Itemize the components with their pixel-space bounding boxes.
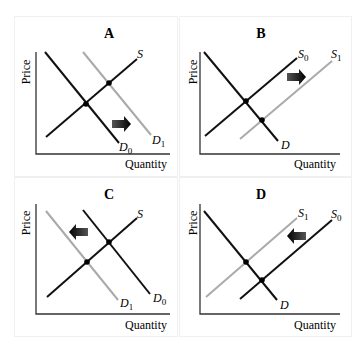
label-s1: S1 — [298, 206, 309, 222]
ylabel-a: Price — [19, 60, 33, 85]
chart-a: A Price Quantity S D0 D1 — [19, 26, 170, 171]
axes-a — [36, 52, 170, 154]
chart-b: B Price Quantity S0 S1 D — [186, 26, 342, 171]
xlabel-c: Quantity — [125, 318, 167, 332]
label-s: S — [137, 207, 143, 221]
label-d1: D1 — [119, 296, 133, 312]
title-c: C — [104, 187, 114, 202]
label-s: S — [137, 47, 143, 61]
chart-d: D Price Quantity S1 S0 D — [186, 187, 342, 332]
equilibrium-point — [106, 239, 112, 245]
arrow-right-icon — [112, 116, 131, 132]
axes-d — [200, 204, 340, 314]
title-d: D — [256, 187, 266, 202]
title-a: A — [104, 26, 115, 41]
equilibrium-point — [243, 259, 249, 265]
ylabel-d: Price — [186, 211, 200, 236]
arrow-right-icon — [287, 69, 306, 85]
xlabel-a: Quantity — [125, 157, 167, 171]
ylabel-c: Price — [19, 211, 33, 236]
title-b: B — [256, 26, 265, 41]
chart-c: C Price Quantity S D0 D1 — [19, 187, 170, 332]
ylabel-b: Price — [186, 60, 200, 85]
label-d: D — [280, 138, 290, 152]
equilibrium-point — [83, 101, 89, 107]
axes-c — [36, 204, 170, 314]
supply-demand-diagrams: A Price Quantity S D0 D1 B Price Quantit… — [0, 0, 359, 350]
axes-b — [200, 52, 340, 154]
arrow-left-icon — [69, 224, 88, 240]
label-s1: S1 — [331, 47, 342, 63]
curve-s1 — [240, 61, 332, 139]
equilibrium-point — [106, 80, 112, 86]
equilibrium-point — [259, 117, 265, 123]
label-d1: D1 — [151, 133, 165, 149]
arrow-left-icon — [287, 228, 306, 244]
equilibrium-point — [243, 98, 249, 104]
curve-s0 — [240, 220, 332, 299]
equilibrium-point — [259, 277, 265, 283]
curve-d1 — [46, 211, 118, 300]
curve-d — [204, 211, 277, 300]
equilibrium-point — [84, 259, 90, 265]
curve-d0 — [83, 210, 150, 294]
label-d0: D0 — [118, 140, 133, 156]
xlabel-d: Quantity — [294, 318, 336, 332]
xlabel-b: Quantity — [294, 157, 336, 171]
label-s0: S0 — [331, 207, 342, 223]
label-d0: D0 — [152, 291, 167, 307]
label-d: D — [279, 298, 289, 312]
label-s0: S0 — [298, 47, 309, 63]
